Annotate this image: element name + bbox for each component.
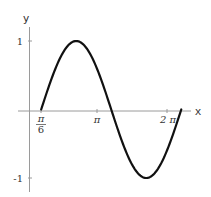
x-tick-label-2pi: 2 π bbox=[159, 114, 177, 125]
y-tick-label-neg1: -1 bbox=[13, 173, 23, 184]
x-tick-label-pi: π bbox=[93, 114, 101, 125]
y-axis-label: y bbox=[23, 12, 30, 25]
y-tick-label-1: 1 bbox=[17, 36, 23, 47]
sine-curve bbox=[41, 41, 181, 178]
x-tick-label-pi-over-6-denominator: 6 bbox=[38, 124, 44, 135]
x-axis-label: x bbox=[195, 105, 202, 118]
x-tick-label-pi-over-6-numerator: π bbox=[37, 113, 45, 124]
sine-plot: y x 1 -1 π 6 π 2 π bbox=[0, 0, 211, 197]
